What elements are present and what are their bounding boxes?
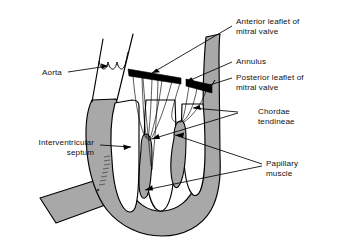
label-septum-line1: Interventricular (39, 138, 95, 147)
label-septum-line2: septum (67, 148, 94, 157)
label-aorta: Aorta (42, 68, 62, 77)
figure-root: Aorta Anterior leaflet of mitral valve A… (0, 0, 348, 252)
label-chordae-line1: Chordae (258, 107, 290, 116)
label-anterior-leaflet-line2: mitral valve (236, 27, 279, 36)
label-posterior-leaflet-line2: mitral valve (236, 83, 279, 92)
label-anterior-leaflet-line1: Anterior leaflet of (236, 17, 300, 26)
label-chordae-line2: tendineae (258, 117, 295, 126)
label-papillary-line1: Papillary (266, 159, 299, 168)
label-posterior-leaflet-line1: Posterior leaflet of (236, 73, 304, 82)
heart-anatomy-diagram: Aorta Anterior leaflet of mitral valve A… (0, 0, 348, 252)
label-annulus: Annulus (236, 57, 266, 66)
label-papillary-line2: muscle (266, 169, 293, 178)
